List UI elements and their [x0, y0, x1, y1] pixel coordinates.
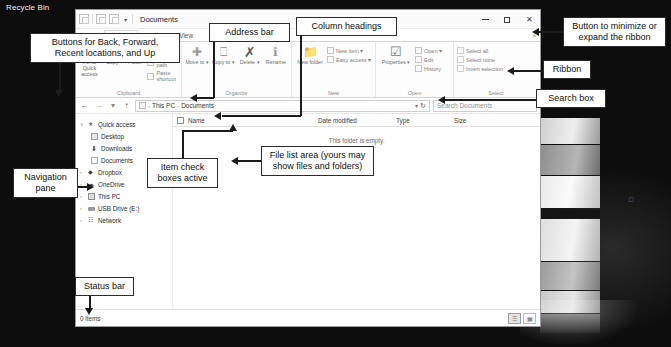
- sidebar-item-usb-drive[interactable]: › USB Drive (E:): [78, 202, 172, 214]
- breadcrumb-separator: ›: [148, 103, 150, 109]
- easy-access-button[interactable]: Easy access ▾: [327, 56, 371, 63]
- history-button[interactable]: History: [415, 65, 442, 72]
- copy-to-icon: ⎕: [220, 46, 227, 58]
- delete-button[interactable]: ✗ Delete ▾: [238, 44, 262, 65]
- window-title: Documents: [140, 15, 178, 24]
- breadcrumb-documents[interactable]: Documents: [181, 102, 214, 109]
- large-icons-view-icon[interactable]: ▦: [523, 313, 536, 324]
- downloads-icon: ⬇: [91, 145, 98, 152]
- sidebar-label: Documents: [101, 157, 133, 164]
- leader-line: [182, 130, 233, 132]
- open-button[interactable]: Open ▾: [415, 47, 442, 54]
- paste-shortcut-icon: [147, 73, 154, 80]
- new-item-icon: [327, 47, 334, 54]
- copy-to-button[interactable]: ⎕ Copy to ▾: [211, 44, 235, 65]
- invert-selection-button[interactable]: Invert selection: [457, 65, 503, 72]
- sidebar-label: This PC: [98, 193, 120, 200]
- callout-status-bar: Status bar: [75, 277, 134, 296]
- new-folder-icon[interactable]: [96, 14, 106, 24]
- callout-nav-buttons: Buttons for Back, Forward, Recent locati…: [30, 33, 180, 63]
- view-toggle-group: ☰ ▦: [508, 313, 536, 324]
- sidebar-item-downloads[interactable]: ⬇ Downloads: [78, 142, 172, 154]
- select-all-checkbox[interactable]: [177, 117, 184, 124]
- select-all-button[interactable]: Select all: [457, 47, 503, 54]
- maximize-button[interactable]: [496, 10, 518, 29]
- column-header-size[interactable]: Size: [454, 117, 504, 124]
- column-header-name[interactable]: Name: [188, 117, 318, 124]
- up-button[interactable]: ↑: [121, 101, 132, 110]
- select-none-button[interactable]: Select none: [457, 56, 503, 63]
- divider: [132, 14, 133, 24]
- chevron-right-icon[interactable]: ›: [80, 205, 85, 211]
- ribbon-group-organize: ✚ Move to ▾ ⎕ Copy to ▾ ✗ Delete ▾ ℹ Ren…: [182, 42, 292, 97]
- rename-button[interactable]: ℹ Rename: [264, 44, 288, 65]
- recycle-bin-label[interactable]: Recycle Bin: [6, 3, 49, 12]
- undo-icon[interactable]: [109, 14, 119, 24]
- select-small-buttons: Select all Select none Invert selection: [457, 44, 503, 72]
- sidebar-item-desktop[interactable]: Desktop: [78, 130, 172, 142]
- callout-file-list-area: File list area (yours may show files and…: [261, 146, 374, 176]
- address-bar[interactable]: › This PC › Documents ▾ ↻: [135, 100, 430, 112]
- leader-arrow: [87, 183, 94, 191]
- forward-button[interactable]: →: [93, 101, 104, 110]
- delete-icon: ✗: [244, 46, 256, 58]
- leader-line: [237, 160, 262, 162]
- sidebar-item-quick-access[interactable]: ∨ ★ Quick access: [78, 118, 172, 130]
- column-header-type[interactable]: Type: [396, 117, 454, 124]
- chevron-down-icon[interactable]: ▾: [122, 16, 129, 23]
- sidebar-label: Dropbox: [98, 169, 122, 176]
- new-item-button[interactable]: New item ▾: [327, 47, 371, 54]
- chevron-right-icon[interactable]: ›: [80, 217, 85, 223]
- file-list-area[interactable]: Name Date modified Type Size This folder…: [173, 114, 540, 309]
- leader-line: [444, 99, 537, 101]
- leader-line: [182, 130, 184, 159]
- edit-icon: [415, 56, 422, 63]
- delete-label: Delete ▾: [240, 59, 260, 65]
- search-input[interactable]: Search Documents: [437, 102, 492, 109]
- chevron-right-icon[interactable]: ›: [80, 169, 85, 175]
- leader-line: [538, 31, 564, 33]
- ribbon-group-open: ☑ Properties ▾ Open ▾ Edit: [376, 42, 454, 97]
- leader-line: [196, 97, 214, 99]
- properties-icon: ☑: [390, 46, 402, 58]
- minimize-button[interactable]: [474, 10, 496, 29]
- callout-address-bar: Address bar: [209, 23, 290, 42]
- back-button[interactable]: ←: [79, 101, 90, 110]
- properties-button[interactable]: ☑ Properties ▾: [379, 44, 413, 65]
- wallpaper-speck: □: [629, 196, 633, 203]
- close-button[interactable]: ✕: [518, 10, 540, 29]
- leader-arrow: [438, 96, 445, 104]
- properties-icon[interactable]: [79, 14, 89, 24]
- details-view-icon[interactable]: ☰: [508, 313, 521, 324]
- chevron-down-icon[interactable]: ∨: [80, 121, 85, 127]
- refresh-icon[interactable]: ↻: [420, 102, 426, 110]
- chevron-right-icon[interactable]: ›: [80, 193, 85, 199]
- leader-arrow: [507, 67, 514, 75]
- network-icon: ☷: [88, 217, 95, 224]
- leader-arrow: [229, 124, 237, 131]
- select-none-label: Select none: [466, 57, 495, 63]
- easy-access-icon: [327, 56, 334, 63]
- chevron-down-icon[interactable]: ▾: [415, 102, 418, 109]
- sidebar-item-network[interactable]: › ☷ Network: [78, 214, 172, 226]
- edit-button[interactable]: Edit: [415, 56, 442, 63]
- sidebar-item-this-pc[interactable]: › This PC: [78, 190, 172, 202]
- callout-navigation-pane: Navigation pane: [13, 168, 78, 198]
- quick-access-toolbar[interactable]: ▾: [79, 14, 129, 24]
- move-to-button[interactable]: ✚ Move to ▾: [185, 44, 209, 65]
- callout-ribbon-toggle: Button to minimize or expand the ribbon: [563, 17, 666, 47]
- breadcrumb-this-pc[interactable]: This PC: [152, 102, 175, 109]
- ribbon-group-label-clipboard: Clipboard: [79, 90, 178, 97]
- paste-shortcut-button[interactable]: Paste shortcut: [147, 70, 178, 82]
- explorer-body: ∨ ★ Quick access Desktop ⬇ Downloads Doc…: [76, 114, 540, 309]
- history-label: History: [424, 66, 441, 72]
- ribbon-group-label-organize: Organize: [185, 90, 288, 97]
- easy-access-label: Easy access ▾: [336, 57, 371, 63]
- open-small-buttons: Open ▾ Edit History: [415, 44, 442, 72]
- divider: [92, 14, 93, 24]
- search-box[interactable]: Search Documents: [433, 100, 537, 112]
- column-header-date-modified[interactable]: Date modified: [318, 117, 396, 124]
- recent-locations-button[interactable]: ▾: [107, 101, 118, 110]
- new-folder-icon: 📁: [303, 46, 318, 58]
- leader-line: [59, 61, 61, 92]
